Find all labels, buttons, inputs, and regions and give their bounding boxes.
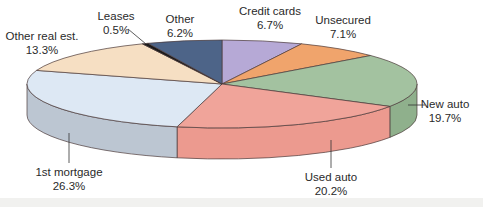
label-other-real-est: Other real est.13.3% (6, 29, 79, 57)
label-credit-cards: Credit cards6.7% (239, 4, 301, 32)
label-1st-mortgage: 1st mortgage26.3% (35, 165, 102, 193)
bottom-strip (0, 198, 483, 207)
label-unsecured: Unsecured7.1% (315, 13, 371, 41)
label-other: Other6.2% (166, 12, 195, 40)
label-leases: Leases0.5% (97, 9, 134, 37)
label-used-auto: Used auto20.2% (305, 170, 357, 198)
label-new-auto: New auto19.7% (421, 97, 470, 125)
pie-top-slices (27, 40, 417, 128)
